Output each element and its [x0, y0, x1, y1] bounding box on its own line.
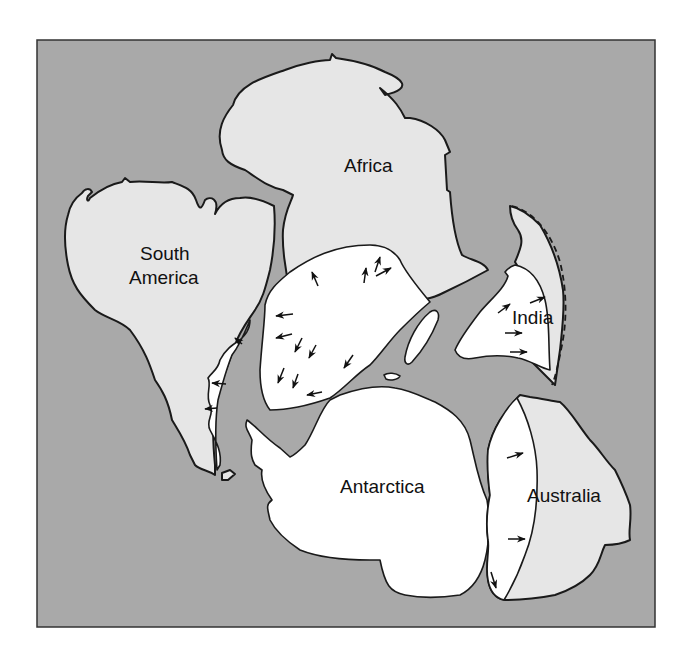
- arrow-icon: [212, 383, 226, 384]
- gondwana-ice-map: Africa South America India Antarctica Au…: [0, 0, 687, 669]
- label-south-america-line2: America: [129, 267, 199, 288]
- small-island-center: [384, 373, 400, 380]
- label-south-america-line1: South: [140, 243, 190, 264]
- label-india: India: [512, 307, 554, 328]
- label-australia: Australia: [527, 485, 601, 506]
- arrow-icon: [205, 408, 217, 409]
- label-antarctica: Antarctica: [340, 476, 425, 497]
- label-africa: Africa: [344, 155, 393, 176]
